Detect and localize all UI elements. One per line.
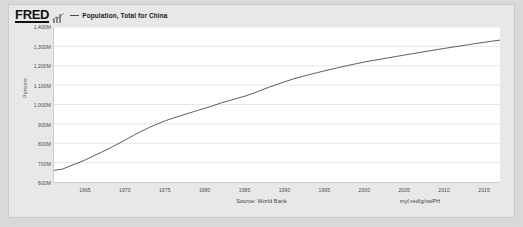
series-line-population-china xyxy=(54,40,500,170)
x-tick-label: 1985 xyxy=(239,187,251,193)
fred-logo[interactable]: FRED xyxy=(15,8,49,23)
x-tick-label: 1975 xyxy=(159,187,171,193)
x-tick-label: 2000 xyxy=(359,187,371,193)
x-tick-label: 1980 xyxy=(199,187,211,193)
y-tick-label: 900M xyxy=(11,122,51,128)
bar-chart-icon xyxy=(52,10,64,22)
chart-header: FRED Population, Total for China xyxy=(9,5,514,25)
x-tick-label: 1995 xyxy=(319,187,331,193)
y-axis-ticks: 1,400M 1,300M 1,200M 1,100M 1,000M 900M … xyxy=(9,27,51,183)
y-tick-label: 1,400M xyxy=(11,24,51,30)
x-tick-label: 2015 xyxy=(478,187,490,193)
y-tick-label: 1,000M xyxy=(11,102,51,108)
plot-wrapper: Persons 1,400M 1,300M 1,200M 1,100M 1,00… xyxy=(9,25,515,197)
legend-line-marker xyxy=(70,15,79,16)
screenshot-root: FRED Population, Total for China Persons… xyxy=(0,0,523,227)
fred-graph-card: FRED Population, Total for China Persons… xyxy=(8,4,515,218)
x-axis-ticks: 1965 1970 1975 1980 1985 1990 1995 2000 … xyxy=(53,185,500,197)
chart-svg xyxy=(54,27,500,182)
y-tick-label: 800M xyxy=(11,141,51,147)
short-url-label[interactable]: myf.red/g/xwPH xyxy=(400,198,440,204)
y-tick-label: 1,200M xyxy=(11,63,51,69)
chart-legend[interactable]: Population, Total for China xyxy=(70,12,167,19)
y-tick-label: 1,100M xyxy=(11,83,51,89)
y-tick-label: 1,300M xyxy=(11,44,51,50)
y-tick-label: 600M xyxy=(11,180,51,186)
legend-label-population-china: Population, Total for China xyxy=(82,12,167,19)
y-tick-label: 700M xyxy=(11,161,51,167)
x-tick-label: 1965 xyxy=(79,187,91,193)
chart-footer: Source: World Bank myf.red/g/xwPH xyxy=(9,198,514,214)
x-tick-label: 2010 xyxy=(438,187,450,193)
plot-area[interactable] xyxy=(53,27,500,183)
x-tick-label: 1970 xyxy=(119,187,131,193)
x-tick-label: 2005 xyxy=(398,187,410,193)
x-tick-label: 1990 xyxy=(279,187,291,193)
